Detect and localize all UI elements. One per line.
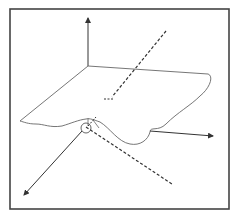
- lower-dashed-ray: [86, 127, 172, 184]
- origin-marker: [81, 123, 91, 133]
- right-axis: [150, 131, 213, 136]
- lower-dashed-stub: [88, 117, 96, 126]
- surface-sheet: [20, 66, 211, 144]
- frame: [10, 9, 229, 209]
- upper-dashed-ray: [112, 31, 166, 97]
- front-left-axis: [24, 131, 82, 195]
- surface-diagram: [0, 0, 235, 219]
